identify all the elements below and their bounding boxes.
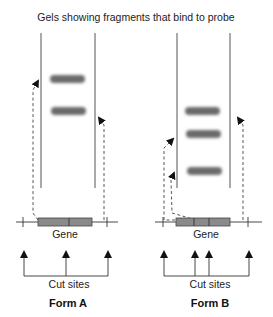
gel-band	[50, 75, 85, 83]
form-a-panel: Gene Cut sites Form A	[16, 33, 118, 309]
migration-arrow	[33, 81, 38, 220]
restriction-fragment-diagram: Gels showing fragments that bind to prob…	[0, 0, 273, 317]
cut-sites-label: Cut sites	[49, 278, 90, 290]
form-a-gel	[41, 33, 95, 188]
migration-arrow	[171, 173, 196, 220]
form-a-label: Form A	[49, 297, 87, 309]
gene-box	[38, 218, 92, 226]
gene-box	[176, 218, 230, 226]
migration-arrow	[238, 118, 243, 220]
gel-band	[185, 107, 220, 115]
migration-arrow	[164, 139, 175, 220]
cut-sites-label: Cut sites	[190, 278, 231, 290]
gel-band	[187, 167, 222, 175]
gene-label: Gene	[193, 228, 219, 240]
form-b-gel	[177, 33, 230, 188]
gel-band	[51, 107, 86, 115]
gene-label: Gene	[52, 228, 78, 240]
form-b-panel: Gene Cut sites Form B	[155, 33, 262, 309]
migration-arrow	[99, 118, 104, 220]
gel-band	[186, 130, 221, 138]
diagram-title: Gels showing fragments that bind to prob…	[37, 11, 234, 23]
form-b-label: Form B	[191, 297, 230, 309]
